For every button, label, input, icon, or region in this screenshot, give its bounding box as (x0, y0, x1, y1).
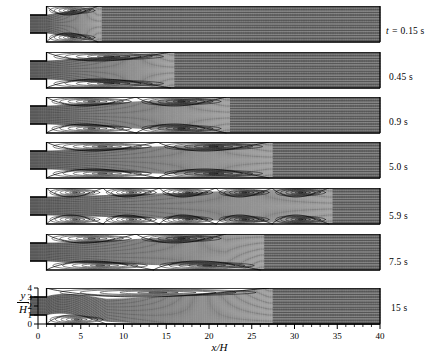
y-tick-0: 0 (28, 319, 33, 329)
x-tick-40: 40 (376, 331, 386, 341)
x-tick-35: 35 (333, 331, 343, 341)
x-tick-10: 10 (119, 331, 129, 341)
axes-ticks: 051015202530354001234 (0, 0, 439, 363)
x-tick-20: 20 (205, 331, 215, 341)
y-tick-3: 3 (28, 292, 33, 302)
x-tick-0: 0 (36, 331, 41, 341)
x-tick-5: 5 (79, 331, 84, 341)
y-tick-2: 2 (28, 301, 33, 311)
x-tick-30: 30 (290, 331, 300, 341)
y-tick-1: 1 (28, 310, 33, 320)
x-tick-25: 25 (247, 331, 257, 341)
x-tick-15: 15 (162, 331, 172, 341)
y-tick-4: 4 (28, 283, 33, 293)
streamline-figure: t = 0.15 s 0.45 s 0.9 s 5.0 s 5.9 s 7.5 … (0, 0, 439, 363)
